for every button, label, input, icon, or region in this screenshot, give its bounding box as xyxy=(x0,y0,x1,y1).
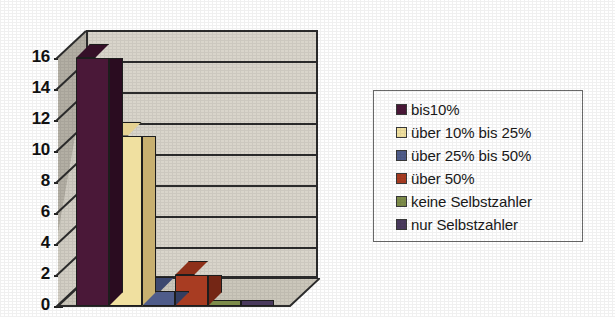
y-axis-tick-label: 14 xyxy=(8,78,50,98)
legend: bis10%über 10% bis 25%über 25% bis 50%üb… xyxy=(373,90,583,242)
bar-side-face xyxy=(142,136,156,307)
legend-swatch-icon xyxy=(396,196,407,207)
legend-item[interactable]: nur Selbstzahler xyxy=(396,213,582,236)
bar-side-face xyxy=(109,58,123,306)
legend-swatch-icon xyxy=(396,150,407,161)
legend-swatch-icon xyxy=(396,173,407,184)
legend-swatch-icon xyxy=(396,127,407,138)
bar-front-face xyxy=(241,300,274,306)
y-axis-tick-label: 0 xyxy=(8,295,50,315)
legend-item-label: keine Selbstzahler xyxy=(411,193,532,210)
plot-area xyxy=(58,30,348,298)
legend-item-label: nur Selbstzahler xyxy=(411,216,518,233)
y-axis-tick-label: 10 xyxy=(8,140,50,160)
y-axis-tick-label: 12 xyxy=(8,109,50,129)
legend-swatch-icon xyxy=(396,219,407,230)
bar-front-face xyxy=(76,58,109,306)
legend-swatch-icon xyxy=(396,104,407,115)
bar-chart-figure: 1614121086420 bis10%über 10% bis 25%über… xyxy=(0,0,615,317)
y-axis-tick-label: 16 xyxy=(8,47,50,67)
y-axis-tick-label: 4 xyxy=(8,233,50,253)
y-axis-tick-label: 8 xyxy=(8,171,50,191)
legend-item[interactable]: über 50% xyxy=(396,167,582,190)
y-axis-tick-label: 2 xyxy=(8,264,50,284)
legend-item[interactable]: über 10% bis 25% xyxy=(396,121,582,144)
legend-item-label: über 50% xyxy=(411,170,474,187)
legend-item-label: bis10% xyxy=(411,101,460,118)
bar xyxy=(76,58,109,306)
legend-item[interactable]: über 25% bis 50% xyxy=(396,144,582,167)
legend-item[interactable]: keine Selbstzahler xyxy=(396,190,582,213)
legend-item[interactable]: bis10% xyxy=(396,98,582,121)
legend-item-label: über 10% bis 25% xyxy=(411,124,531,141)
bar xyxy=(241,300,274,306)
y-axis-tick-label: 6 xyxy=(8,202,50,222)
legend-item-label: über 25% bis 50% xyxy=(411,147,531,164)
